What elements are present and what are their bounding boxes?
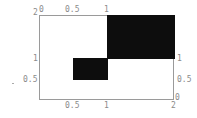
left-tick-0-5: 0.5 <box>23 76 37 84</box>
bottom-tick-2: 2 <box>171 102 176 110</box>
top-tick-0: 0 <box>39 6 44 14</box>
filled-region-top-right <box>107 15 175 59</box>
filled-region-center <box>73 58 108 80</box>
bottom-tick-1: 1 <box>104 102 109 110</box>
right-tick-1: 1 <box>177 55 182 63</box>
right-tick-0-5: 0.5 <box>177 76 191 84</box>
left-tick-1: 1 <box>33 55 38 63</box>
plot-frame <box>39 15 174 100</box>
top-tick-1: 1 <box>104 6 109 14</box>
left-tick-2: 2 <box>33 9 38 17</box>
stray-mark <box>12 83 14 84</box>
top-tick-0-5: 0.5 <box>65 6 79 14</box>
bottom-tick-0-5: 0.5 <box>65 102 79 110</box>
